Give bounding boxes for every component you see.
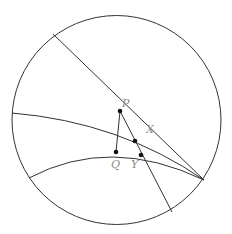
point-q	[114, 150, 119, 155]
label-p: P	[121, 97, 130, 110]
segment-pq	[116, 111, 120, 152]
point-y	[139, 153, 144, 158]
point-intersection	[133, 139, 138, 144]
label-q: Q	[111, 158, 120, 171]
geometry-diagram: P X Q Y	[0, 0, 232, 234]
boundary-circle	[12, 16, 221, 225]
upper-arc	[12, 113, 204, 180]
label-y: Y	[131, 158, 140, 171]
label-x: X	[145, 123, 155, 136]
